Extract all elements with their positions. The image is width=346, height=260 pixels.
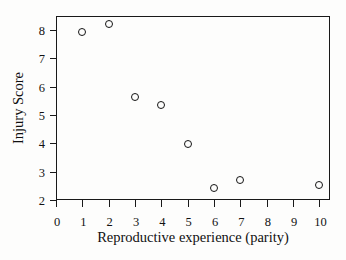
x-tick: 0: [56, 200, 57, 207]
x-tick-label: 0: [54, 216, 60, 229]
x-tick: 5: [188, 200, 189, 207]
x-tick-label: 8: [265, 216, 271, 229]
data-point: [315, 181, 323, 189]
x-tick-label: 2: [107, 216, 113, 229]
x-tick: 1: [82, 200, 83, 207]
x-tick-label: 1: [80, 216, 86, 229]
plot-area: 2345678 012345678910: [56, 16, 330, 200]
x-tick-label: 6: [212, 216, 218, 229]
y-tick: 6: [50, 87, 56, 88]
y-tick-label: 4: [39, 138, 45, 151]
y-tick: 7: [50, 58, 56, 59]
x-tick: 9: [293, 200, 294, 207]
x-tick-label: 7: [238, 216, 244, 229]
y-tick: 5: [50, 115, 56, 116]
x-tick: 8: [267, 200, 268, 207]
data-point: [184, 140, 192, 148]
y-tick-label: 7: [39, 53, 45, 66]
y-tick: 4: [50, 143, 56, 144]
data-point: [78, 28, 86, 36]
data-point: [236, 176, 244, 184]
scatter-plot-figure: 2345678 012345678910 Reproductive experi…: [0, 0, 346, 260]
y-tick-label: 5: [39, 110, 45, 123]
x-tick: 7: [240, 200, 241, 207]
y-tick-label: 2: [39, 195, 45, 208]
x-tick: 10: [319, 200, 320, 207]
data-point: [105, 20, 113, 28]
data-point: [210, 184, 218, 192]
y-tick-label: 3: [39, 166, 45, 179]
x-tick: 2: [109, 200, 110, 207]
x-tick-label: 4: [159, 216, 165, 229]
x-tick-label: 5: [186, 216, 192, 229]
x-tick: 4: [161, 200, 162, 207]
x-tick-label: 3: [133, 216, 139, 229]
y-axis-label: Injury Score: [11, 72, 26, 144]
x-tick-label: 10: [314, 216, 327, 229]
data-point: [157, 101, 165, 109]
y-tick-label: 6: [39, 82, 45, 95]
y-tick: 3: [50, 172, 56, 173]
x-tick: 6: [214, 200, 215, 207]
x-tick-label: 9: [291, 216, 297, 229]
x-axis-label: Reproductive experience (parity): [56, 230, 330, 245]
y-tick-label: 8: [39, 25, 45, 38]
y-tick: 8: [50, 30, 56, 31]
data-point: [131, 93, 139, 101]
x-tick: 3: [135, 200, 136, 207]
